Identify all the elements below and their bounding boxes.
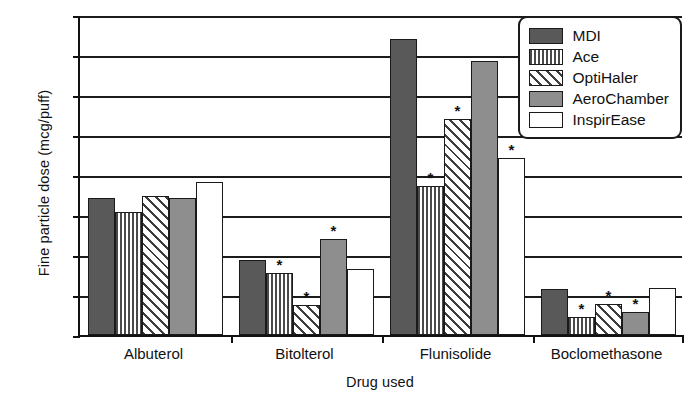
bar-flunisolide-aerochamber [471,61,498,335]
y-axis-tick [73,216,80,218]
legend-item-mdi[interactable]: MDI [529,25,670,46]
category-separator-tick [682,335,684,343]
bar-boclomethasone-mdi [541,289,568,335]
legend-label: OptiHaler [573,70,638,86]
category-separator-tick [382,335,384,343]
category-separator-tick [231,335,233,343]
bar-bitolterol-optihaler [293,305,320,335]
legend-label: InspirEase [573,112,646,128]
bar-chart: Fine particle dose (mcg/puff) 0102030405… [0,0,696,402]
legend-swatch-optihaler [529,70,563,86]
bar-albuterol-aerochamber [169,198,196,335]
legend-item-optihaler[interactable]: OptiHaler [529,67,670,88]
legend-swatch-inspirease [529,112,563,128]
legend-label: MDI [573,28,601,44]
y-axis-tick [73,176,80,178]
significance-marker: * [579,301,585,316]
significance-marker: * [509,142,515,157]
bar-boclomethasone-inspirease [649,288,676,335]
x-axis-label: Drug used [78,374,682,390]
y-axis-tick [73,16,80,18]
bar-boclomethasone-ace [568,317,595,335]
significance-marker: * [606,288,612,303]
significance-marker: * [331,223,337,238]
bar-bitolterol-inspirease [347,269,374,335]
legend-label: Ace [573,49,600,65]
bar-bitolterol-aerochamber [320,239,347,335]
bar-flunisolide-optihaler [444,119,471,335]
x-axis-category-label: Flunisolide [420,345,492,362]
legend-item-aerochamber[interactable]: AeroChamber [529,88,670,109]
bar-albuterol-ace [115,212,142,335]
legend-item-ace[interactable]: Ace [529,46,670,67]
y-axis-tick [73,296,80,298]
legend-swatch-aerochamber [529,91,563,107]
significance-marker: * [304,289,310,304]
legend-item-inspirease[interactable]: InspirEase [529,109,670,130]
bar-flunisolide-ace [417,186,444,335]
bar-boclomethasone-optihaler [595,304,622,335]
bar-bitolterol-ace [266,273,293,335]
x-axis-category-label: Bitolterol [275,345,333,362]
y-axis-tick [73,256,80,258]
bar-boclomethasone-aerochamber [622,312,649,335]
x-axis-category-label: Boclomethasone [551,345,663,362]
y-axis-tick [73,96,80,98]
bar-bitolterol-mdi [239,260,266,335]
y-axis-tick [73,336,80,338]
bar-albuterol-inspirease [196,182,223,335]
x-axis-category-label: Albuterol [124,345,183,362]
significance-marker: * [633,296,639,311]
legend: MDIAceOptiHalerAeroChamberInspirEase [518,16,683,139]
significance-marker: * [277,257,283,272]
gridline [80,176,682,178]
bar-flunisolide-inspirease [498,158,525,335]
y-axis-label: Fine particle dose (mcg/puff) [36,53,52,313]
legend-label: AeroChamber [573,91,670,107]
significance-marker: * [455,103,461,118]
legend-swatch-mdi [529,28,563,44]
legend-swatch-ace [529,49,563,65]
y-axis-tick [73,136,80,138]
y-axis-tick [73,56,80,58]
bar-albuterol-mdi [88,198,115,335]
bar-flunisolide-mdi [390,39,417,335]
significance-marker: * [428,170,434,185]
category-separator-tick [533,335,535,343]
bar-albuterol-optihaler [142,196,169,335]
